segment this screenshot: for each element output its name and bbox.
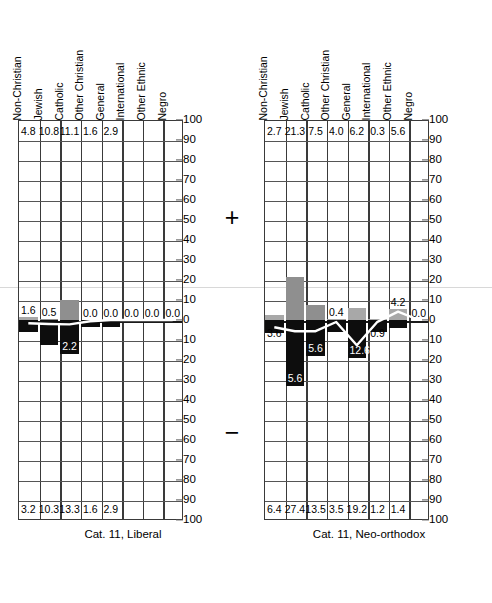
plus-sign: +	[219, 205, 245, 230]
y-tick-label: 20	[429, 354, 442, 366]
y-tick-label: 60	[183, 434, 196, 446]
column-header-label: Jewish	[33, 88, 44, 120]
y-tick-label: 40	[429, 394, 442, 406]
bars-layer-right: 0.44.20.03.65.65.612.60.9	[264, 120, 429, 520]
y-tick-mark	[176, 319, 183, 320]
trend-line	[18, 120, 183, 520]
y-tick-label: 50	[429, 214, 442, 226]
y-tick-label: 0	[183, 314, 189, 326]
column-header-cell: Negro	[162, 20, 183, 120]
column-header-label: Negro	[157, 91, 168, 120]
y-tick-label: 80	[429, 474, 442, 486]
y-tick-mark	[422, 299, 429, 300]
y-tick-mark	[422, 259, 429, 260]
y-tick-label: 40	[429, 234, 442, 246]
y-tick-label: 80	[183, 154, 196, 166]
y-tick-label: 40	[183, 234, 196, 246]
y-tick-mark	[176, 279, 183, 280]
y-tick-label: 70	[183, 174, 196, 186]
sign-column: + −	[219, 0, 245, 603]
y-tick-mark	[422, 439, 429, 440]
y-tick-label: 60	[429, 434, 442, 446]
y-tick-label: 50	[183, 214, 196, 226]
y-axis-right: 1009080706050403020100102030405060708090…	[429, 120, 469, 520]
y-tick-label: 90	[429, 134, 442, 146]
y-tick-mark	[176, 479, 183, 480]
y-tick-mark	[422, 379, 429, 380]
y-axis-left: 1009080706050403020100102030405060708090…	[183, 120, 223, 520]
y-tick-label: 10	[429, 334, 442, 346]
y-tick-mark	[422, 479, 429, 480]
y-tick-mark	[422, 319, 429, 320]
y-tick-label: 90	[183, 134, 196, 146]
y-tick-label: 100	[183, 514, 202, 526]
y-tick-mark	[422, 199, 429, 200]
column-header-cell: Negro	[408, 20, 429, 120]
y-tick-mark	[176, 439, 183, 440]
column-header-label: International	[116, 62, 127, 120]
y-tick-mark	[422, 239, 429, 240]
minus-sign: −	[219, 420, 245, 445]
y-tick-label: 40	[183, 394, 196, 406]
y-tick-mark	[422, 359, 429, 360]
column-headers-left: Non-ChristianJewishCatholicOther Christi…	[18, 20, 183, 120]
y-tick-label: 30	[183, 374, 196, 386]
y-tick-mark	[176, 519, 183, 520]
y-tick-label: 90	[429, 494, 442, 506]
y-tick-label: 10	[183, 294, 196, 306]
caption-right: Cat. 11, Neo-orthodox	[246, 528, 492, 540]
column-header-label: Other Christian	[320, 49, 331, 120]
y-tick-label: 20	[183, 274, 196, 286]
y-tick-label: 30	[183, 254, 196, 266]
chart-panel-liberal: Non-ChristianJewishCatholicOther Christi…	[0, 0, 246, 603]
column-header-label: Catholic	[54, 82, 65, 120]
y-tick-label: 50	[183, 414, 196, 426]
column-header-label: General	[341, 83, 352, 120]
column-header-label: Catholic	[300, 82, 311, 120]
y-tick-mark	[176, 499, 183, 500]
y-tick-label: 70	[183, 454, 196, 466]
y-tick-mark	[422, 459, 429, 460]
y-tick-mark	[422, 399, 429, 400]
column-header-label: Other Ethnic	[382, 62, 393, 120]
y-tick-label: 100	[183, 114, 202, 126]
y-tick-label: 70	[429, 174, 442, 186]
y-tick-mark	[176, 459, 183, 460]
y-tick-label: 20	[429, 274, 442, 286]
column-header-label: Other Ethnic	[136, 62, 147, 120]
column-header-label: Jewish	[279, 88, 290, 120]
y-tick-mark	[176, 379, 183, 380]
y-tick-label: 100	[429, 514, 448, 526]
y-tick-label: 70	[429, 454, 442, 466]
y-tick-mark	[422, 179, 429, 180]
y-tick-mark	[422, 519, 429, 520]
y-tick-mark	[422, 279, 429, 280]
y-tick-label: 100	[429, 114, 448, 126]
y-tick-label: 30	[429, 374, 442, 386]
y-tick-mark	[176, 339, 183, 340]
y-tick-mark	[176, 239, 183, 240]
column-header-label: Non-Christian	[259, 56, 270, 120]
y-tick-label: 80	[429, 154, 442, 166]
y-tick-mark	[176, 419, 183, 420]
column-header-label: Non-Christian	[13, 56, 24, 120]
trend-line	[264, 120, 429, 520]
y-tick-label: 60	[183, 194, 196, 206]
y-tick-mark	[422, 499, 429, 500]
y-tick-label: 90	[183, 494, 196, 506]
column-header-label: Other Christian	[74, 49, 85, 120]
y-tick-mark	[176, 159, 183, 160]
caption-left: Cat. 11, Liberal	[0, 528, 246, 540]
y-tick-label: 10	[429, 294, 442, 306]
y-tick-mark	[176, 199, 183, 200]
y-tick-mark	[422, 139, 429, 140]
y-tick-mark	[176, 359, 183, 360]
y-tick-label: 10	[183, 334, 196, 346]
y-tick-label: 20	[183, 354, 196, 366]
y-tick-mark	[422, 219, 429, 220]
column-header-label: General	[95, 83, 106, 120]
y-tick-mark	[422, 119, 429, 120]
y-tick-label: 30	[429, 254, 442, 266]
y-tick-mark	[176, 299, 183, 300]
y-tick-mark	[422, 419, 429, 420]
